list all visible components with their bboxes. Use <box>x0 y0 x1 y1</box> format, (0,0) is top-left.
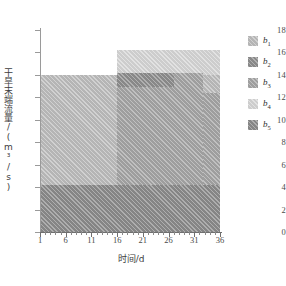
y-tick-16 <box>35 52 40 53</box>
y-tick-12 <box>35 97 40 98</box>
x-tick-24 <box>158 232 159 235</box>
legend-swatch-b3 <box>248 78 258 88</box>
legend-swatch-b4 <box>248 99 258 109</box>
legend-item-b2[interactable]: b2 <box>248 55 284 68</box>
x-axis-title: 时间/d <box>40 252 222 265</box>
y-tick-10 <box>35 120 40 121</box>
y-tick-8 <box>35 142 40 143</box>
legend-swatch-b2 <box>248 57 258 67</box>
x-tick-27 <box>174 232 175 235</box>
hatch-overlay-legend-b4 <box>248 99 258 109</box>
y-tick-label-6: 6 <box>256 161 286 170</box>
chart-legend: b1 b2 b3 b4 b5 <box>248 34 284 139</box>
x-tick-29 <box>184 232 185 235</box>
x-tick-17 <box>122 232 123 235</box>
x-tick-8 <box>76 232 77 235</box>
y-tick-6 <box>35 165 40 166</box>
legend-item-b1[interactable]: b1 <box>248 34 284 47</box>
x-tick-label-1: 1 <box>28 236 52 245</box>
legend-swatch-b1 <box>248 36 258 46</box>
x-tick-22 <box>148 232 149 235</box>
legend-swatch-b5 <box>248 120 258 130</box>
y-tick-label-0: 0 <box>256 228 286 237</box>
x-tick-label-31: 31 <box>182 236 206 245</box>
legend-label-b4: b4 <box>263 98 271 110</box>
legend-label-sub-b5: 5 <box>268 123 271 130</box>
legend-item-b5[interactable]: b5 <box>248 118 284 131</box>
legend-label-sub-b1: 1 <box>268 39 271 46</box>
legend-item-b3[interactable]: b3 <box>248 76 284 89</box>
legend-label-b1: b1 <box>263 35 271 47</box>
x-tick-14 <box>107 232 108 235</box>
plot-area <box>40 30 220 232</box>
x-tick-23 <box>153 232 154 235</box>
y-tick-4 <box>35 187 40 188</box>
y-tick-label-8: 8 <box>256 138 286 147</box>
x-tick-12 <box>97 232 98 235</box>
y-axis-line <box>40 28 41 234</box>
hatch-overlay-legend-b5 <box>248 120 258 130</box>
y-tick-label-2: 2 <box>256 206 286 215</box>
x-tick-33 <box>205 232 206 235</box>
x-tick-18 <box>127 232 128 235</box>
y-tick-18 <box>35 30 40 31</box>
x-tick-13 <box>102 232 103 235</box>
hatch-overlay-legend-b2 <box>248 57 258 67</box>
x-tick-label-6: 6 <box>54 236 78 245</box>
x-tick-label-26: 26 <box>157 236 181 245</box>
x-tick-9 <box>81 232 82 235</box>
x-tick-19 <box>133 232 134 235</box>
x-tick-7 <box>71 232 72 235</box>
legend-label-b2: b2 <box>263 56 271 68</box>
x-tick-2 <box>45 232 46 235</box>
hatch-overlay-b2 <box>117 73 174 88</box>
x-tick-label-16: 16 <box>105 236 129 245</box>
x-tick-5 <box>61 232 62 235</box>
x-tick-label-21: 21 <box>131 236 155 245</box>
band-b2 <box>117 73 174 88</box>
y-axis-title: 干旱末端流量/(m³/s) <box>2 40 16 220</box>
x-tick-4 <box>55 232 56 235</box>
legend-label-b3: b3 <box>263 77 271 89</box>
x-tick-label-36: 36 <box>208 236 232 245</box>
x-tick-28 <box>179 232 180 235</box>
y-tick-2 <box>35 210 40 211</box>
hatch-overlay-b5 <box>40 185 220 232</box>
legend-label-b5: b5 <box>263 119 271 131</box>
y-tick-label-4: 4 <box>256 183 286 192</box>
y-tick-14 <box>35 75 40 76</box>
hatch-overlay-legend-b3 <box>248 78 258 88</box>
chart-figure: 18 16 14 12 10 8 6 4 2 0 1 6 11 16 21 26… <box>0 0 286 286</box>
legend-label-sub-b4: 4 <box>268 102 271 109</box>
hatch-overlay-legend-b1 <box>248 36 258 46</box>
band-b5 <box>40 185 220 232</box>
x-tick-32 <box>199 232 200 235</box>
legend-label-sub-b3: 3 <box>268 81 271 88</box>
legend-label-sub-b2: 2 <box>268 60 271 67</box>
x-tick-label-11: 11 <box>79 236 103 245</box>
x-tick-3 <box>50 232 51 235</box>
x-tick-34 <box>210 232 211 235</box>
legend-item-b4[interactable]: b4 <box>248 97 284 110</box>
